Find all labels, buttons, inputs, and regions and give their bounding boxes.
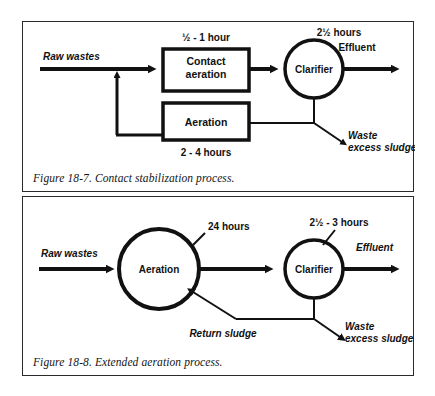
waste-sludge-label-line2: excess sludge (348, 142, 415, 153)
effluent-label: Effluent (338, 42, 376, 53)
figure-caption-18-8: Figure 18-8. Extended aeration process. (33, 356, 223, 368)
raw-wastes-label: Raw wastes (41, 248, 98, 259)
return-sludge-arrow (193, 292, 236, 319)
waste-sludge-label-line1: Waste (345, 321, 375, 332)
aeration-label: Aeration (139, 264, 180, 275)
contact-aeration-label-line1: Contact (186, 55, 226, 67)
clarifier-time-label: 2½ - 3 hours (310, 217, 369, 228)
extended-aeration-diagram: Raw wastes Aeration 24 hours Clarifier 2… (23, 197, 415, 377)
return-sludge-label: Return sludge (189, 328, 257, 339)
waste-sludge-arrow (314, 319, 340, 337)
clarifier-time-label: 2½ hours (317, 27, 362, 38)
effluent-label: Effluent (356, 242, 394, 253)
figure-caption-18-7: Figure 18-7. Contact stabilization proce… (33, 172, 235, 184)
figure-panel-contact-stabilization: Contact aeration ½ - 1 hour Clarifier 2½… (22, 21, 414, 192)
clarifier-label: Clarifier (295, 264, 333, 275)
waste-sludge-label-line2: excess sludge (345, 333, 414, 344)
raw-wastes-label: Raw wastes (43, 51, 100, 62)
aeration-time-label: 24 hours (208, 221, 250, 232)
contact-stabilization-diagram: Contact aeration ½ - 1 hour Clarifier 2½… (23, 22, 415, 193)
aeration-label: Aeration (185, 116, 228, 128)
aeration-time-label: 2 - 4 hours (181, 147, 232, 158)
aeration-time-leader-line (193, 233, 205, 245)
page-canvas: Contact aeration ½ - 1 hour Clarifier 2½… (0, 0, 435, 396)
contact-aeration-time-label: ½ - 1 hour (182, 32, 230, 43)
contact-aeration-label-line2: aeration (186, 68, 227, 80)
figure-panel-extended-aeration: Raw wastes Aeration 24 hours Clarifier 2… (22, 196, 414, 376)
clarifier-label: Clarifier (295, 64, 333, 75)
waste-sludge-arrow (314, 123, 342, 142)
waste-sludge-label-line1: Waste (348, 130, 378, 141)
